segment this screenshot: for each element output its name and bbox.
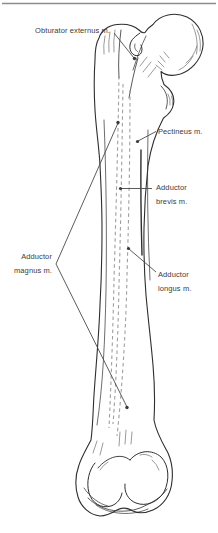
figure-canvas: Obturator externus m. Pectineus m. Adduc… (0, 0, 218, 533)
linea-aspera-dash-left (109, 76, 119, 428)
lateral-condyle-detail (88, 463, 122, 507)
hatching-group (93, 24, 200, 470)
linea-aspera-dashes (109, 76, 130, 436)
adductor-magnus-leader-lower (56, 264, 127, 407)
neck-contour (133, 36, 146, 70)
trochanter-inner-edge (119, 30, 121, 78)
head-fovea-hatching (156, 52, 169, 70)
label-adductor-brevis-line1: Adductor (156, 181, 187, 195)
femur-outline (76, 14, 203, 516)
shaft-inner-right (148, 130, 150, 280)
supracondylar-hatching (93, 430, 132, 455)
linea-aspera-lip (141, 150, 142, 255)
label-obturator-externus: Obturator externus m. (35, 24, 110, 38)
label-adductor-magnus-line1: Adductor (6, 250, 52, 264)
adductor-magnus-dot-upper (116, 121, 119, 124)
label-adductor-magnus-line2: magnus m. (6, 264, 52, 278)
fossa-inner-curl (135, 44, 138, 52)
label-adductor-brevis: Adductor brevis m. (156, 181, 187, 208)
label-pectineus: Pectineus m. (158, 125, 203, 139)
pectineus-dot (136, 140, 139, 143)
obturator-externus-dot (133, 57, 136, 60)
label-adductor-longus-line1: Adductor (158, 268, 191, 282)
medial-condyle-detail (125, 452, 168, 505)
neck-hatching (140, 57, 156, 77)
head-hatching (179, 24, 200, 70)
trochanteric-fossa-detail (130, 33, 142, 56)
obturator-externus-leader (114, 33, 134, 58)
label-adductor-longus: Adductor longus m. (158, 268, 191, 295)
adductor-magnus-dot-lower (125, 406, 128, 409)
condyle-bottom-wave-1 (88, 489, 167, 511)
linea-aspera-dash-right (117, 90, 130, 436)
adductor-longus-dot (127, 247, 130, 250)
lesser-trochanter-hatching (168, 94, 173, 105)
femur-outline-group (76, 14, 203, 516)
label-adductor-magnus: Adductor magnus m. (6, 250, 52, 277)
label-adductor-brevis-line2: brevis m. (156, 195, 187, 209)
lesser-trochanter-detail (161, 86, 167, 109)
condyle-hatching (100, 454, 159, 470)
adductor-magnus-leader-upper (56, 123, 118, 264)
pectineus-leader (138, 132, 156, 142)
adductor-brevis-dot (119, 187, 122, 190)
label-adductor-longus-line2: longus m. (158, 282, 191, 296)
